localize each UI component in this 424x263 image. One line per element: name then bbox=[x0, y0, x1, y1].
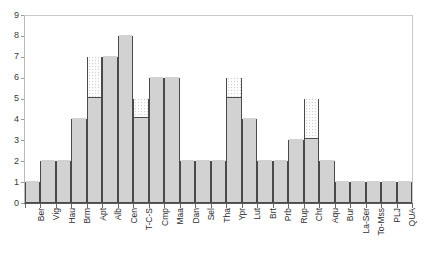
bar-segment-solid bbox=[274, 160, 287, 202]
x-tick-label: Rup bbox=[300, 208, 309, 224]
bar-slot bbox=[288, 15, 303, 203]
x-tick-label: Ber bbox=[37, 208, 46, 221]
bar-slot bbox=[211, 15, 226, 203]
bar-segment-solid bbox=[72, 118, 85, 202]
bar-segment-solid bbox=[382, 181, 395, 202]
x-tick-label: Lut bbox=[253, 208, 262, 220]
x-tick-label: Brt bbox=[269, 208, 278, 219]
bar[interactable] bbox=[180, 161, 195, 203]
y-tick-label: 7 bbox=[14, 52, 19, 61]
bar-segment-solid bbox=[289, 139, 302, 202]
y-tick-label: 5 bbox=[14, 94, 19, 103]
bar-slot bbox=[25, 15, 40, 203]
bar[interactable] bbox=[102, 57, 117, 203]
bar-slot bbox=[56, 15, 71, 203]
x-tick-label: La-Ser bbox=[362, 208, 371, 234]
bar[interactable] bbox=[366, 182, 381, 203]
bar[interactable] bbox=[257, 161, 272, 203]
bar-segment-solid bbox=[320, 160, 333, 202]
bar-segment-solid bbox=[88, 98, 101, 202]
bar-segment-solid bbox=[103, 56, 116, 202]
bar-segment-solid bbox=[367, 181, 380, 202]
bar-slot bbox=[133, 15, 148, 203]
bar-slot bbox=[381, 15, 396, 203]
bar-slot bbox=[87, 15, 102, 203]
bar-slot bbox=[180, 15, 195, 203]
plot-right-border bbox=[412, 15, 413, 204]
bar-segment-solid bbox=[41, 160, 54, 202]
bar-slot bbox=[304, 15, 319, 203]
y-tick-mark bbox=[21, 57, 24, 58]
x-tick-label: Cen bbox=[130, 208, 139, 224]
x-tick-label: T-C-S bbox=[145, 208, 154, 230]
bar[interactable] bbox=[335, 182, 350, 203]
y-tick-mark bbox=[21, 99, 24, 100]
bar-segment-solid bbox=[119, 35, 132, 202]
bar[interactable] bbox=[149, 78, 164, 203]
y-tick-mark bbox=[21, 119, 24, 120]
bar[interactable] bbox=[397, 182, 412, 203]
x-tick-label: Bur bbox=[346, 208, 355, 221]
bar-slot bbox=[242, 15, 257, 203]
x-tick-label: Cht bbox=[315, 208, 324, 221]
bar[interactable] bbox=[195, 161, 210, 203]
bar-slot bbox=[164, 15, 179, 203]
bar-slot bbox=[319, 15, 334, 203]
y-tick-mark bbox=[21, 36, 24, 37]
plot-area bbox=[25, 15, 412, 203]
x-tick-label: Dan bbox=[192, 208, 201, 224]
bar[interactable] bbox=[164, 78, 179, 203]
bar[interactable] bbox=[304, 99, 319, 203]
bar-segment-solid bbox=[398, 181, 411, 202]
x-tick-label: QUA bbox=[408, 208, 417, 226]
x-tick-label: Apt bbox=[99, 208, 108, 221]
bar-slot bbox=[397, 15, 412, 203]
bar[interactable] bbox=[25, 182, 40, 203]
y-tick-label: 3 bbox=[14, 136, 19, 145]
bar-slot bbox=[350, 15, 365, 203]
bar-segment-solid bbox=[196, 160, 209, 202]
x-tick-label: Sel bbox=[207, 208, 216, 220]
bar[interactable] bbox=[288, 140, 303, 203]
bar[interactable] bbox=[133, 99, 148, 203]
bar-segment-solid bbox=[258, 160, 271, 202]
x-tick-label: Cmp bbox=[161, 208, 170, 226]
y-axis: 0123456789 bbox=[0, 0, 22, 210]
bar-segment-hatched bbox=[88, 56, 101, 98]
y-tick-mark bbox=[21, 182, 24, 183]
x-tick-label: Tha bbox=[223, 208, 232, 223]
bar-slot bbox=[102, 15, 117, 203]
bar-segment-hatched bbox=[134, 98, 147, 119]
bar-segment-solid bbox=[134, 118, 147, 202]
y-tick-label: 6 bbox=[14, 73, 19, 82]
bar-segment-hatched bbox=[227, 77, 240, 98]
bar[interactable] bbox=[381, 182, 396, 203]
bar[interactable] bbox=[87, 57, 102, 203]
bar-segment-solid bbox=[305, 139, 318, 202]
bar[interactable] bbox=[40, 161, 55, 203]
bar-slot bbox=[71, 15, 86, 203]
y-tick-label: 0 bbox=[14, 199, 19, 208]
bar-slot bbox=[335, 15, 350, 203]
bar[interactable] bbox=[242, 119, 257, 203]
bar[interactable] bbox=[319, 161, 334, 203]
x-tick-label: Vig bbox=[52, 208, 61, 220]
bar-slot bbox=[195, 15, 210, 203]
x-tick-label: Ypr bbox=[238, 208, 247, 221]
bar-segment-solid bbox=[165, 77, 178, 202]
bar-segment-solid bbox=[227, 98, 240, 202]
bar[interactable] bbox=[118, 36, 133, 203]
y-tick-label: 8 bbox=[14, 31, 19, 40]
y-tick-mark bbox=[21, 140, 24, 141]
bar[interactable] bbox=[71, 119, 86, 203]
bar[interactable] bbox=[56, 161, 71, 203]
bar[interactable] bbox=[350, 182, 365, 203]
bar-slot bbox=[273, 15, 288, 203]
bar[interactable] bbox=[226, 78, 241, 203]
bar[interactable] bbox=[211, 161, 226, 203]
x-tick-label: Aqu bbox=[331, 208, 340, 223]
bar-segment-solid bbox=[181, 160, 194, 202]
bar-slot bbox=[118, 15, 133, 203]
bar[interactable] bbox=[273, 161, 288, 203]
bar-segment-solid bbox=[57, 160, 70, 202]
